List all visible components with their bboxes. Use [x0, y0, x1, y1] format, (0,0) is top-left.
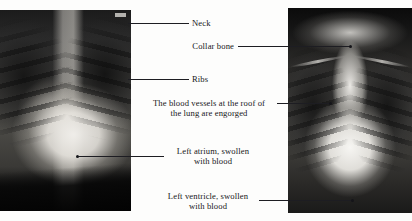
- left-atrium-leader-line: [78, 156, 164, 157]
- annotated-xray-figure: Neck Collar bone Ribs The blood vessels …: [0, 0, 412, 221]
- left-ventricle-endpoint-dot: [351, 199, 354, 202]
- collar-bone-label: Collar bone: [156, 41, 234, 51]
- ribs-leader-line: [128, 79, 189, 80]
- collar-bone-leader-line: [238, 46, 350, 47]
- neck-label: Neck: [192, 18, 211, 28]
- blood-vessels-endpoint-dot: [329, 102, 332, 105]
- right-chest-xray-image: [288, 8, 412, 213]
- collar-bone-endpoint-dot: [349, 45, 352, 48]
- ribs-label: Ribs: [192, 74, 208, 84]
- left-xray-film-marker: [115, 13, 126, 17]
- blood-vessels-leader-line: [277, 103, 330, 104]
- right-xray-rib-shadows-right-side: [288, 8, 412, 213]
- left-atrium-label: Left atrium, swollen with blood: [167, 146, 259, 167]
- left-chest-xray-image: [0, 10, 131, 211]
- blood-vessels-label: The blood vessels at the roof of the lun…: [144, 98, 274, 119]
- neck-leader-line: [128, 23, 189, 24]
- left-ventricle-leader-line: [259, 200, 353, 201]
- left-ventricle-label: Left ventricle, swollen with blood: [160, 191, 256, 212]
